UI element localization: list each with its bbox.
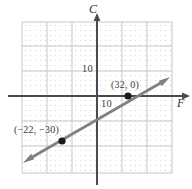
f-axis-label: F [177,97,185,109]
coordinate-plane-figure: C F 10 10 (32, 0) (−22, −30) [0,0,192,189]
f-axis-tick-label-10: 10 [101,99,112,110]
data-point-neg22-neg30 [58,137,65,144]
c-axis-label: C [89,3,97,15]
data-point-32-0 [124,92,131,99]
point-label-neg22-neg30: (−22, −30) [14,125,59,135]
plot-canvas [0,0,192,189]
point-label-32-0: (32, 0) [111,80,139,90]
c-axis-tick-label-10: 10 [82,64,93,75]
